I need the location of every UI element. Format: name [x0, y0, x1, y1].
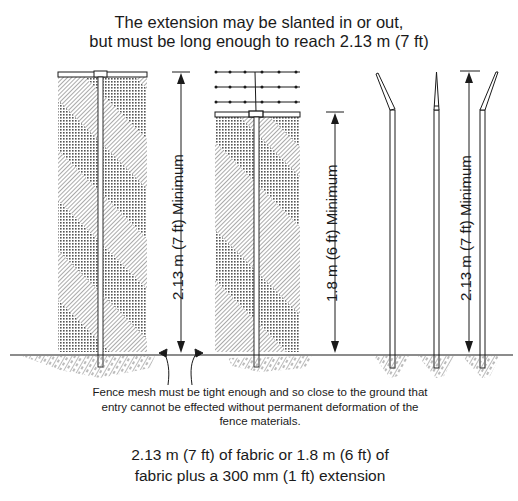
- fence-2: [215, 71, 301, 368]
- barbed-wire: [215, 71, 301, 113]
- diagram-caption: 2.13 m (7 ft) of fabric or 1.8 m (6 ft) …: [60, 445, 460, 486]
- dimension-label-1: 2.13 m (7 ft) Minimum: [170, 154, 186, 300]
- post-slanted-out: [376, 73, 395, 368]
- post-straight: [434, 72, 439, 368]
- caption-line-1: 2.13 m (7 ft) of fabric or 1.8 m (6 ft) …: [60, 445, 460, 466]
- fence-2-post-cap: [249, 111, 263, 117]
- fence-1-post: [98, 77, 103, 367]
- dimension-label-2: 1.8 m (6 ft) Minimum: [324, 164, 340, 302]
- post-slanted-in: [480, 72, 498, 368]
- fence-2-post: [254, 117, 259, 367]
- caption-line-2: fabric plus a 300 mm (1 ft) extension: [60, 466, 460, 487]
- fence-1-post-cap: [94, 71, 107, 77]
- dimension-label-3: 2.13 m (7 ft) Minimum: [458, 155, 474, 301]
- ground: [10, 355, 513, 378]
- fence-3-posts: [376, 72, 498, 368]
- ground-clearance-note: Fence mesh must be tight enough and so c…: [90, 385, 430, 429]
